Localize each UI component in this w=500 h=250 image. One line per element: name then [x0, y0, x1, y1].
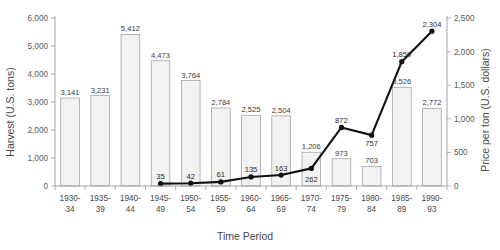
line-marker — [309, 166, 314, 171]
line-marker — [369, 133, 374, 138]
bar — [121, 34, 140, 186]
bar-value-label: 2,772 — [422, 98, 441, 107]
x-tick-label: 59 — [216, 205, 226, 214]
x-tick-label: 1975- — [331, 194, 352, 203]
y-axis-title: Harvest (U.S. tons) — [4, 67, 16, 156]
y-tick-label: 2,000 — [28, 126, 49, 135]
x-tick-label: 64 — [246, 205, 256, 214]
x-tick-label: 1935- — [90, 194, 111, 203]
bar — [151, 61, 170, 186]
bar — [61, 98, 80, 186]
y-tick-label: 3,000 — [28, 98, 49, 107]
bar-value-label: 2,784 — [211, 98, 230, 107]
y-tick-label: 1,000 — [28, 154, 49, 163]
x-tick-label: 1945- — [150, 194, 171, 203]
y2-tick-label: 1,000 — [454, 115, 475, 124]
x-tick-label: 89 — [397, 205, 407, 214]
line-marker — [188, 181, 193, 186]
x-tick-label: 74 — [307, 205, 317, 214]
line-marker — [429, 29, 434, 34]
x-tick-label: 1955- — [210, 194, 231, 203]
bar-value-label: 1,206 — [302, 142, 321, 151]
chart-container: 01,0002,0003,0004,0005,0006,00005001,000… — [0, 0, 500, 250]
line-marker — [248, 174, 253, 179]
y2-axis-title: Price per ton (U.S. dollars) — [479, 48, 491, 172]
x-tick-label: 1990- — [421, 194, 442, 203]
x-tick-label: 54 — [186, 205, 196, 214]
y-tick-label: 5,000 — [28, 42, 49, 51]
x-tick-label: 1985- — [391, 194, 412, 203]
x-tick-label: 1960- — [241, 194, 262, 203]
line-marker — [218, 179, 223, 184]
y2-tick-label: 2,000 — [454, 48, 475, 57]
bar-value-label: 2,504 — [272, 106, 291, 115]
bar — [332, 159, 351, 186]
bar — [423, 108, 442, 186]
x-tick-label: 34 — [66, 205, 76, 214]
line-value-label: 61 — [217, 170, 225, 179]
x-tick-label: 49 — [156, 205, 166, 214]
y-tick-label: 4,000 — [28, 70, 49, 79]
line-value-label: 2,304 — [422, 20, 441, 29]
x-tick-label: 44 — [126, 205, 136, 214]
line-value-label: 35 — [156, 172, 164, 181]
bar-value-label: 3,141 — [61, 88, 80, 97]
x-tick-label: 1970- — [301, 194, 322, 203]
line-marker — [158, 181, 163, 186]
bar-value-label: 3,526 — [392, 77, 411, 86]
line-value-label: 872 — [335, 116, 348, 125]
bar-value-label: 5,412 — [121, 24, 140, 33]
bar-value-label: 973 — [335, 149, 348, 158]
x-tick-label: 79 — [337, 205, 347, 214]
line-value-label: 135 — [245, 165, 258, 174]
x-tick-label: 1965- — [271, 194, 292, 203]
line-value-label: 42 — [186, 172, 194, 181]
x-axis-title: Time Period — [217, 230, 273, 242]
x-tick-label: 1950- — [180, 194, 201, 203]
line-marker — [399, 59, 404, 64]
harvest-price-chart: 01,0002,0003,0004,0005,0006,00005001,000… — [0, 0, 500, 250]
bar-value-label: 3,764 — [181, 71, 200, 80]
bar-value-label: 4,473 — [151, 51, 170, 60]
bar — [91, 96, 110, 186]
y2-tick-label: 0 — [454, 182, 459, 191]
bar-value-label: 703 — [365, 156, 378, 165]
y-tick-label: 0 — [43, 182, 48, 191]
y2-tick-label: 1,500 — [454, 81, 475, 90]
line-value-label: 757 — [365, 139, 378, 148]
line-marker — [339, 125, 344, 130]
x-tick-label: 1980- — [361, 194, 382, 203]
x-tick-label: 84 — [367, 205, 377, 214]
y2-tick-label: 2,500 — [454, 14, 475, 23]
y2-tick-label: 500 — [454, 148, 468, 157]
x-tick-label: 1940- — [120, 194, 141, 203]
bar — [181, 81, 200, 186]
y-tick-label: 6,000 — [28, 14, 49, 23]
line-value-label: 163 — [275, 164, 288, 173]
line-value-label: 262 — [305, 175, 318, 184]
line-marker — [279, 172, 284, 177]
bar-value-label: 2,525 — [241, 105, 260, 114]
x-tick-label: 39 — [96, 205, 106, 214]
line-value-label: 1,850 — [392, 50, 411, 59]
bar — [362, 166, 381, 186]
price-line — [161, 31, 432, 183]
bar-value-label: 3,231 — [91, 86, 110, 95]
bar — [392, 87, 411, 186]
x-tick-label: 69 — [277, 205, 287, 214]
x-tick-label: 1930- — [60, 194, 81, 203]
x-tick-label: 93 — [427, 205, 437, 214]
